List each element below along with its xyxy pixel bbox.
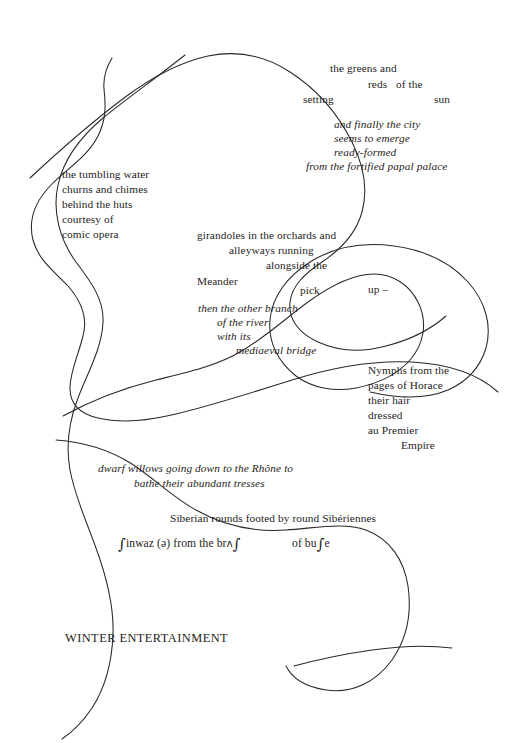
- poem-page: the greens and reds of the setting sun a…: [0, 0, 528, 743]
- stanza-tumbling-line5: comic opera: [62, 227, 119, 242]
- stanza-willows-line1: dwarf willows going down to the Rhône to: [98, 461, 293, 476]
- stanza-branch-line3: with its: [217, 329, 251, 344]
- stanza-branch-line2: of the river: [217, 315, 268, 330]
- phonetic-text-one: inwaz (ə) from the br: [126, 537, 227, 550]
- stanza-city-line2: seems to emerge: [334, 131, 410, 146]
- stanza-nymphs-line1: Nymphs from the: [368, 363, 449, 378]
- stanza-siberian-line1: Siberian rounds footed by round Sibérien…: [170, 511, 376, 526]
- esh-integral-icon: ∫: [118, 535, 126, 553]
- phonetic-segment-two: of bu∫e: [292, 536, 330, 552]
- stanza-nymphs-line6: Empire: [401, 438, 435, 453]
- stanza-city-line4: from the fortified papal palace: [306, 159, 447, 174]
- stanza-girandoles-line2: alleyways running: [229, 243, 314, 258]
- stanza-willows-line2: bathe their abundant tresses: [134, 476, 265, 491]
- stanza-tumbling-line1: the tumbling water: [62, 167, 149, 182]
- stanza-branch-line1: then the other branch: [198, 301, 298, 316]
- turned-v-icon: ʌ: [227, 537, 233, 549]
- page-title: WINTER ENTERTAINMENT: [65, 630, 228, 647]
- stanza-nymphs-line2: pages of Horace: [368, 378, 443, 393]
- phonetic-segment-one: ∫inwaz (ə) from the brʌ∫: [118, 536, 241, 552]
- stanza-greens-line1: the greens and: [330, 61, 397, 76]
- phonetic-text-three: e: [325, 537, 330, 550]
- stanza-girandoles-line4: Meander: [197, 274, 238, 289]
- stanza-city-line3: ready-formed: [334, 145, 396, 160]
- stanza-tumbling-line4: courtesy of: [62, 212, 114, 227]
- stanza-nymphs-line4: dressed: [368, 408, 403, 423]
- phonetic-text-two: of bu: [292, 537, 317, 550]
- ink-curve-f: [294, 646, 452, 666]
- stanza-tumbling-line2: churns and chimes: [62, 182, 148, 197]
- stanza-girandoles-line6: up –: [368, 282, 388, 297]
- stanza-nymphs-line5: au Premier: [368, 423, 418, 438]
- stanza-city-line1: and finally the city: [334, 117, 420, 132]
- stanza-tumbling-line3: behind the huts: [62, 197, 133, 212]
- stanza-nymphs-line3: their hair: [368, 393, 410, 408]
- stanza-greens-line2: reds of the: [368, 77, 423, 92]
- esh-integral-icon-3: ∫: [317, 535, 325, 553]
- stanza-greens-line3b: sun: [434, 92, 450, 107]
- stanza-greens-line3a: setting: [303, 92, 334, 107]
- stanza-branch-line4: mediaeval bridge: [236, 343, 316, 358]
- esh-integral-icon-2: ∫: [233, 535, 241, 553]
- stanza-girandoles-line1: girandoles in the orchards and: [197, 228, 336, 243]
- stanza-girandoles-line3: alongside the: [266, 258, 327, 273]
- stanza-girandoles-line5: pick: [300, 283, 320, 298]
